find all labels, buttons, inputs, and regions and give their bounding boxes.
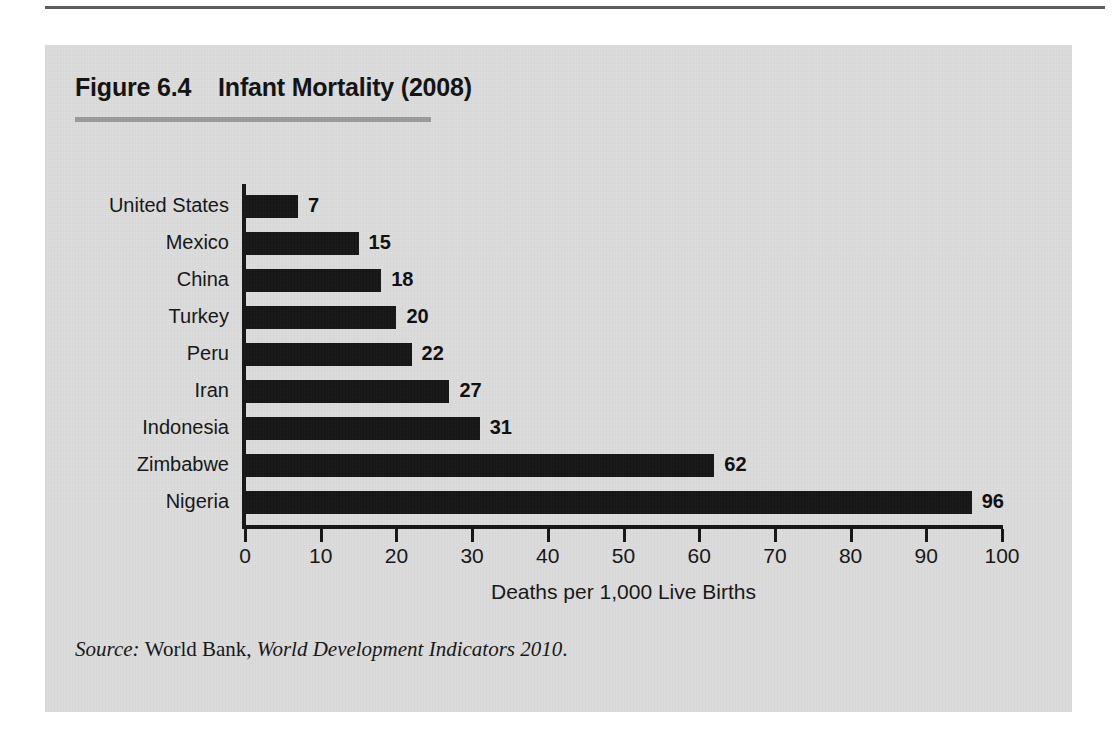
bar	[245, 380, 449, 403]
x-axis-tick-label: 80	[839, 544, 862, 568]
bar	[245, 306, 396, 329]
bar-value-label: 20	[406, 305, 428, 328]
source-note: Source: World Bank, World Development In…	[75, 637, 568, 662]
bar	[245, 343, 412, 366]
x-axis-tick-label: 100	[984, 544, 1019, 568]
x-axis-tick	[244, 529, 247, 542]
x-axis-tick	[395, 529, 398, 542]
source-publisher: World Bank,	[145, 637, 252, 661]
bar-value-label: 31	[490, 416, 512, 439]
bar-value-label: 15	[369, 231, 391, 254]
x-axis-tick	[925, 529, 928, 542]
source-terminator: .	[562, 637, 567, 661]
x-axis-tick	[698, 529, 701, 542]
x-axis-tick	[623, 529, 626, 542]
page-top-rule	[45, 6, 1105, 9]
x-axis-tick-label: 10	[309, 544, 332, 568]
x-axis-tick	[850, 529, 853, 542]
x-axis-tick	[320, 529, 323, 542]
x-axis-tick-label: 60	[688, 544, 711, 568]
category-label: Peru	[39, 342, 229, 365]
x-axis-tick-label: 20	[385, 544, 408, 568]
x-axis-tick-label: 50	[612, 544, 635, 568]
bar-value-label: 27	[459, 379, 481, 402]
bar-value-label: 7	[308, 194, 319, 217]
bar-value-label: 96	[982, 490, 1004, 513]
source-lead: Source:	[75, 637, 140, 661]
plot-area: United States7Mexico15China18Turkey20Per…	[245, 188, 1002, 521]
x-axis-tick-label: 90	[915, 544, 938, 568]
bar	[245, 195, 298, 218]
category-label: Iran	[39, 379, 229, 402]
x-axis-tick-label: 70	[763, 544, 786, 568]
figure-panel: Figure 6.4 Infant Mortality (2008) Unite…	[45, 45, 1072, 712]
source-publication: World Development Indicators 2010	[257, 637, 562, 661]
bar-chart: United States7Mexico15China18Turkey20Per…	[45, 45, 1072, 712]
bar	[245, 417, 480, 440]
x-axis-tick-label: 30	[460, 544, 483, 568]
category-label: Mexico	[39, 231, 229, 254]
x-axis-tick	[1001, 529, 1004, 542]
bar	[245, 269, 381, 292]
x-axis-tick-label: 0	[239, 544, 251, 568]
bar	[245, 491, 972, 514]
x-axis-tick	[547, 529, 550, 542]
x-axis-title: Deaths per 1,000 Live Births	[245, 580, 1002, 604]
x-axis-tick-label: 40	[536, 544, 559, 568]
category-label: United States	[39, 194, 229, 217]
category-label: China	[39, 268, 229, 291]
category-label: Turkey	[39, 305, 229, 328]
bar-value-label: 22	[422, 342, 444, 365]
bar-value-label: 18	[391, 268, 413, 291]
x-axis-tick	[471, 529, 474, 542]
bar	[245, 454, 714, 477]
category-label: Indonesia	[39, 416, 229, 439]
category-label: Zimbabwe	[39, 453, 229, 476]
figure-page: Figure 6.4 Infant Mortality (2008) Unite…	[0, 0, 1118, 752]
category-label: Nigeria	[39, 490, 229, 513]
x-axis-tick	[774, 529, 777, 542]
bar	[245, 232, 359, 255]
bar-value-label: 62	[724, 453, 746, 476]
